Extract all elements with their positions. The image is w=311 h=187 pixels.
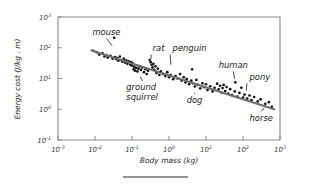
data-point [119, 55, 122, 58]
y-axis-tick-labels: 10-1100101102103 [37, 13, 51, 145]
y-tick-label-3: 102 [39, 44, 51, 53]
data-point [243, 93, 246, 96]
data-point [140, 69, 143, 72]
y-tick-label-2: 101 [39, 75, 51, 84]
data-point [137, 67, 140, 70]
data-point [135, 67, 138, 70]
data-point [225, 86, 228, 89]
data-point [199, 87, 202, 90]
data-point [143, 71, 146, 74]
data-point [229, 88, 232, 91]
data-point [256, 100, 259, 103]
annotation-labels: mouseratpenguingroundsquirreldoghumanpon… [92, 27, 273, 123]
y-axis-ticks [58, 17, 62, 140]
data-point [191, 68, 194, 71]
y-tick-label-0: 10-1 [37, 136, 51, 145]
leader-human [233, 71, 234, 79]
data-point [224, 90, 227, 93]
data-point [179, 73, 182, 76]
leader-penguin [170, 55, 171, 65]
data-point [222, 84, 225, 87]
leader-ground-squirrel [140, 77, 142, 81]
x-axis-ticks [58, 136, 280, 140]
x-axis-tick-labels: 10-310-210-1100101102103 [51, 145, 286, 154]
x-tick-label-5: 102 [237, 145, 249, 154]
data-point [233, 90, 236, 93]
x-tick-label-3: 100 [163, 145, 175, 154]
y-tick-label-4: 103 [39, 13, 51, 22]
data-point [172, 78, 175, 81]
y-tick-label-1: 100 [39, 105, 51, 114]
chart-canvas: 10-1100101102103 10-310-210-110010110210… [0, 0, 311, 187]
data-point [194, 85, 197, 88]
x-tick-label-0: 10-3 [51, 145, 65, 154]
data-point [182, 76, 185, 79]
data-point [151, 66, 154, 69]
leader-mouse [106, 38, 112, 45]
annotation-human: human [219, 60, 248, 70]
data-point [221, 87, 224, 90]
data-point [149, 61, 152, 64]
data-point [205, 83, 208, 86]
data-point [145, 73, 148, 76]
data-point [268, 101, 271, 104]
data-point [188, 83, 191, 86]
energy-cost-vs-body-mass-chart: 10-1100101102103 10-310-210-110010110210… [0, 0, 311, 187]
y-axis-title: Energy cost (J/kg . m) [13, 38, 22, 119]
data-point [195, 79, 198, 82]
leader-horse [261, 108, 264, 112]
x-tick-label-6: 103 [274, 145, 286, 154]
data-point [201, 82, 204, 85]
data-point [209, 85, 212, 88]
data-point [158, 74, 161, 77]
data-point [152, 62, 155, 65]
data-point [238, 92, 241, 95]
annotation-dog: dog [187, 95, 203, 105]
annotation-horse: horse [250, 113, 273, 123]
annotation-rat: rat [153, 43, 166, 53]
data-point [154, 65, 157, 68]
data-point [240, 86, 243, 89]
annotation-ground-squirrel: groundsquirrel [126, 82, 158, 102]
annotation-mouse: mouse [92, 27, 120, 37]
annotation-pony: pony [249, 72, 272, 82]
data-point [248, 94, 251, 97]
data-point [157, 67, 160, 70]
data-point [264, 102, 267, 105]
x-axis-title: Body mass (kg) [140, 156, 198, 165]
data-point [136, 70, 139, 73]
data-point [219, 84, 222, 87]
annotation-penguin: penguin [172, 43, 207, 53]
data-point [253, 96, 256, 99]
data-point [259, 98, 262, 101]
x-tick-label-1: 10-2 [88, 145, 102, 154]
data-point [166, 71, 169, 74]
data-point [134, 69, 137, 72]
x-tick-label-2: 10-1 [125, 145, 139, 154]
x-tick-label-4: 101 [200, 145, 212, 154]
leader-pony [246, 83, 247, 90]
data-point [234, 81, 237, 84]
data-point [216, 82, 219, 85]
